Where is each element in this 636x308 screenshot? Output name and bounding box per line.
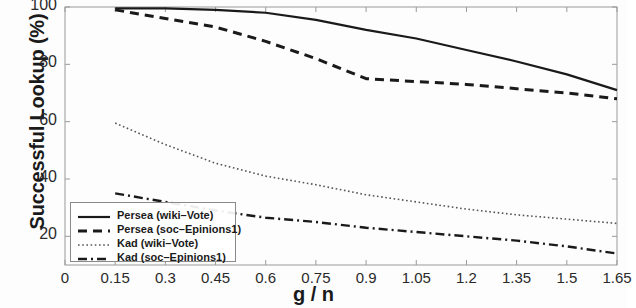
legend-item-label: Persea (soc–Epinions1)	[117, 223, 241, 235]
legend-item-label: Kad (soc–Epinions1)	[117, 251, 226, 263]
chart-legend: Persea (wiki–Vote)Persea (soc–Epinions1)…	[70, 202, 236, 262]
legend-item-label: Kad (wiki–Vote)	[117, 237, 198, 249]
legend-line-sample	[77, 223, 111, 235]
legend-item: Kad (soc–Epinions1)	[77, 250, 226, 264]
legend-line-sample	[77, 209, 111, 221]
legend-line-sample	[77, 237, 111, 249]
legend-line-sample	[77, 251, 111, 263]
legend-item: Kad (wiki–Vote)	[77, 236, 198, 250]
legend-item: Persea (soc–Epinions1)	[77, 222, 241, 236]
series-line-1	[115, 10, 617, 99]
legend-item: Persea (wiki–Vote)	[77, 208, 213, 222]
legend-item-label: Persea (wiki–Vote)	[117, 209, 213, 221]
